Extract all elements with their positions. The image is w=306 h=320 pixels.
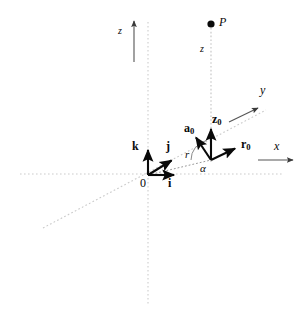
angle-alpha-label: α (200, 163, 206, 174)
unit-vector-j-arrow (148, 161, 172, 176)
cartesian-unit-vectors (148, 150, 174, 175)
x-axis-label: x (274, 140, 279, 152)
unit-vector-z0-label-sub: 0 (217, 117, 221, 127)
unit-vector-a0-label: a0 (184, 122, 194, 136)
unit-vector-j-label: j (166, 140, 170, 152)
unit-vector-a0-arrow (196, 138, 211, 161)
unit-vector-i-label: i (168, 177, 171, 189)
y-axis-guide-line (43, 110, 266, 228)
coordinate-axes (134, 21, 293, 160)
unit-vector-z0-label: z0 (212, 113, 222, 127)
point-p-label: P (219, 16, 226, 28)
origin-label: 0 (140, 177, 146, 189)
guide-lines (20, 22, 282, 305)
height-z-label: z (200, 44, 204, 54)
unit-vector-r0-label: r0 (241, 138, 251, 152)
cylindrical-unit-vectors (196, 129, 235, 160)
unit-vector-a0-label-sub: 0 (190, 126, 194, 136)
unit-vector-r0-arrow (211, 149, 235, 161)
unit-vector-r0-label-sub: 0 (246, 142, 250, 152)
y-axis-label: y (260, 84, 265, 96)
figure-canvas (0, 0, 306, 320)
z-axis-label: z (118, 26, 122, 36)
unit-vector-k-label: k (132, 140, 139, 152)
radius-r-label: r (185, 149, 189, 160)
point-p-dot (207, 20, 214, 27)
y-axis-arrow (229, 108, 258, 122)
cylindrical-coordinates-figure: P z z y x 0 i j k r0 a0 z0 r α (0, 0, 306, 320)
